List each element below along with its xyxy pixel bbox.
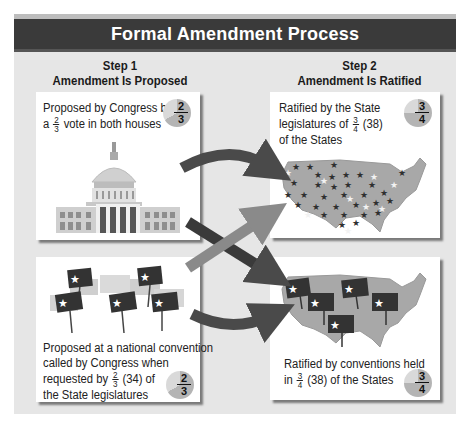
flow-arrows [0,0,463,422]
arrow-congress-to-legislatures [182,154,268,168]
arrow-convention-to-conventions [192,314,270,325]
